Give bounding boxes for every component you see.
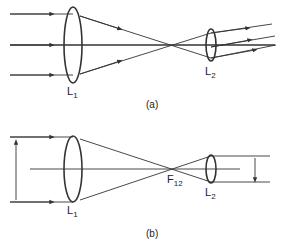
lens-l1-label-a: L1	[67, 86, 78, 100]
diagram-b	[10, 136, 270, 202]
diagram-a	[10, 7, 276, 83]
lens-l2-label-a: L2	[205, 66, 216, 80]
focal-point-label: F12	[167, 174, 183, 188]
optics-diagram	[0, 0, 286, 247]
caption-b: (b)	[146, 228, 158, 239]
caption-a: (a)	[146, 99, 158, 110]
lens-l2-label-b: L2	[205, 187, 216, 201]
lens-l1-label-b: L1	[67, 205, 78, 219]
